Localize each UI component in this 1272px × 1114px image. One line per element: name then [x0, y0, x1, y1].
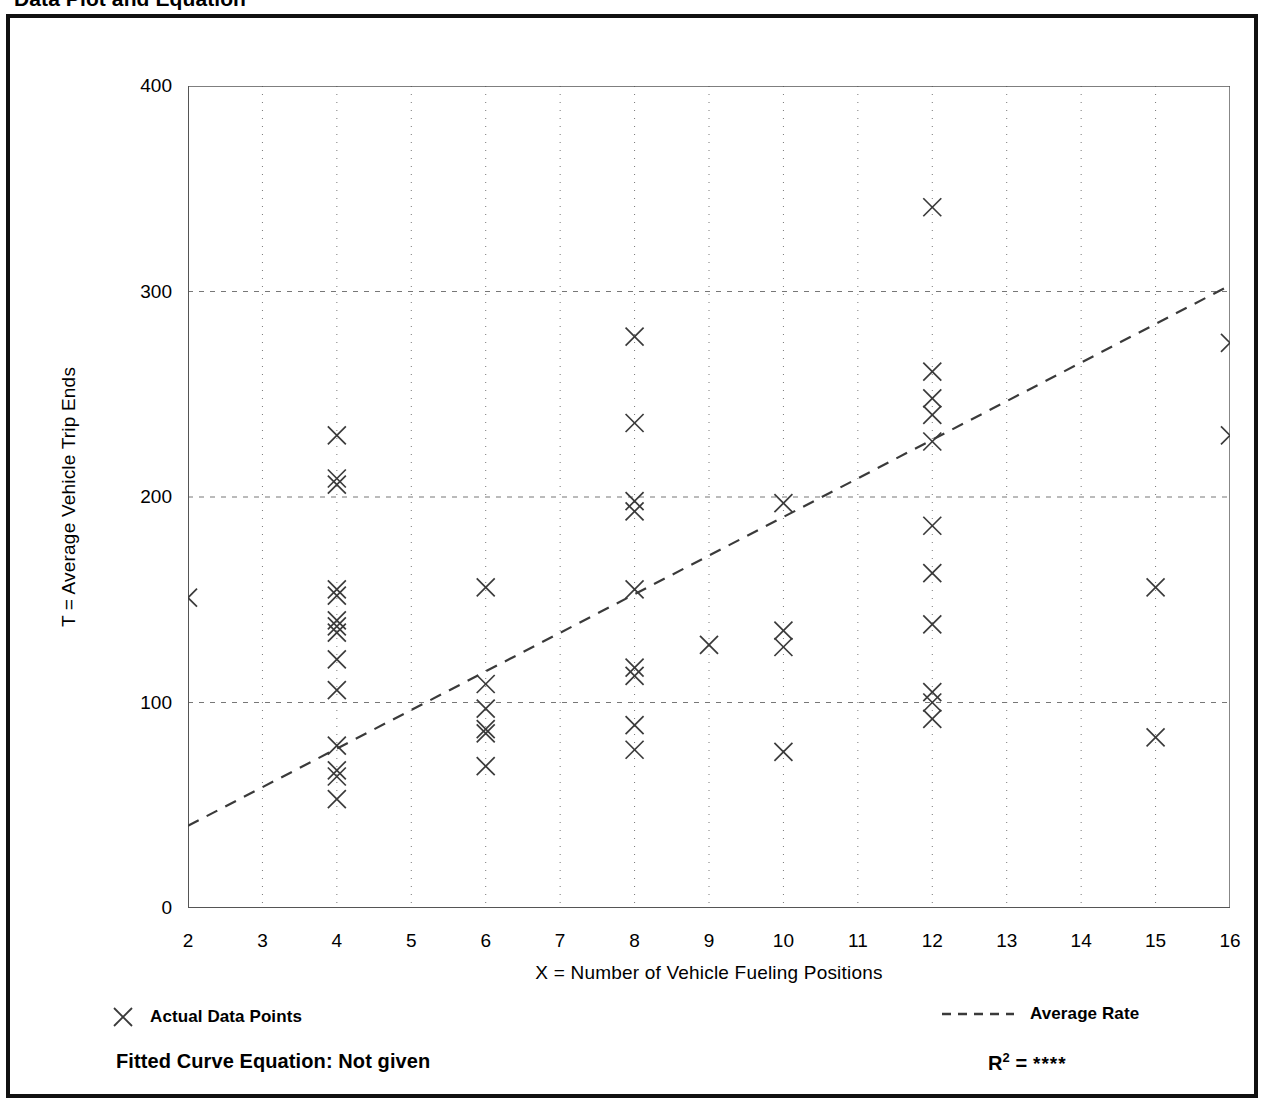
- legend-label-average-rate: Average Rate: [1030, 1004, 1139, 1024]
- x-tick-label: 15: [1145, 930, 1166, 952]
- x-marker-icon: [110, 1004, 136, 1030]
- x-tick-label: 16: [1219, 930, 1240, 952]
- y-tick-label: 400: [88, 75, 172, 97]
- dashed-line-icon: [940, 1007, 1016, 1021]
- figure-footer: Fitted Curve Equation: Not given R2 = **…: [10, 1050, 1262, 1090]
- data-point-marker: [477, 720, 495, 738]
- x-tick-label: 13: [996, 930, 1017, 952]
- data-point-marker: [774, 638, 792, 656]
- data-point-marker: [923, 710, 941, 728]
- data-point-marker: [923, 517, 941, 535]
- data-point-marker: [923, 389, 941, 407]
- data-point-marker: [328, 681, 346, 699]
- data-point-marker: [626, 414, 644, 432]
- figure-frame: T = Average Vehicle Trip Ends X = Number…: [6, 14, 1258, 1098]
- data-point-marker: [1147, 728, 1165, 746]
- data-point-marker: [923, 433, 941, 451]
- x-tick-label: 11: [848, 930, 868, 952]
- x-tick-label: 3: [257, 930, 268, 952]
- x-tick-label: 4: [332, 930, 343, 952]
- r-squared-label: R: [988, 1052, 1003, 1074]
- r-squared-exponent: 2: [1003, 1050, 1010, 1065]
- data-point-marker: [923, 363, 941, 381]
- fitted-curve-equation: Fitted Curve Equation: Not given: [116, 1050, 430, 1073]
- x-tick-label: 5: [406, 930, 417, 952]
- x-tick-label: 8: [629, 930, 640, 952]
- data-point-marker: [1147, 578, 1165, 596]
- data-point-marker: [477, 724, 495, 742]
- x-tick-label: 10: [773, 930, 794, 952]
- data-point-marker: [188, 589, 197, 607]
- legend-label-actual-data-points: Actual Data Points: [150, 1007, 302, 1027]
- data-point-marker: [626, 580, 644, 598]
- data-point-marker: [1221, 426, 1230, 444]
- plot-canvas: [188, 86, 1230, 908]
- data-point-marker: [923, 406, 941, 424]
- scatter-plot: [188, 86, 1230, 908]
- y-tick-label: 300: [88, 281, 172, 303]
- data-point-marker: [477, 578, 495, 596]
- data-point-marker: [774, 622, 792, 640]
- data-point-marker: [923, 198, 941, 216]
- data-point-marker: [477, 757, 495, 775]
- data-point-marker: [626, 328, 644, 346]
- r-squared-value: ****: [1033, 1053, 1067, 1074]
- data-point-marker: [328, 650, 346, 668]
- x-tick-label: 9: [704, 930, 715, 952]
- r-squared-equals: =: [1010, 1052, 1033, 1074]
- data-point-marker: [626, 502, 644, 520]
- y-axis-title: T = Average Vehicle Trip Ends: [54, 86, 84, 908]
- x-tick-label: 14: [1071, 930, 1092, 952]
- r-squared-block: R2 = ****: [988, 1050, 1067, 1075]
- legend-item-average-rate: Average Rate: [940, 1004, 1139, 1024]
- y-tick-label: 100: [88, 692, 172, 714]
- x-axis-title: X = Number of Vehicle Fueling Positions: [188, 962, 1230, 984]
- data-point-marker: [328, 790, 346, 808]
- data-point-marker: [477, 675, 495, 693]
- x-tick-label: 7: [555, 930, 566, 952]
- data-point-marker: [626, 741, 644, 759]
- y-tick-label: 200: [88, 486, 172, 508]
- x-tick-label: 2: [183, 930, 194, 952]
- data-point-marker: [1221, 334, 1230, 352]
- data-point-marker: [626, 659, 644, 677]
- x-tick-label: 6: [480, 930, 491, 952]
- y-tick-label: 0: [88, 897, 172, 919]
- page-title: Data Plot and Equation: [14, 0, 246, 11]
- data-point-marker: [626, 667, 644, 685]
- legend: Actual Data Points Average Rate: [10, 1004, 1262, 1038]
- data-point-marker: [328, 426, 346, 444]
- x-tick-label: 12: [922, 930, 943, 952]
- data-point-marker: [923, 683, 941, 701]
- legend-item-actual-data-points: Actual Data Points: [110, 1004, 302, 1030]
